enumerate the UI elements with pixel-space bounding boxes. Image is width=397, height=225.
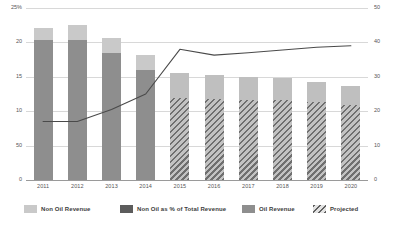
- legend-item-3[interactable]: Projected: [313, 203, 358, 215]
- right-axis-tick-label: 30: [374, 74, 394, 80]
- x-axis-label-2012: 2012: [60, 184, 94, 190]
- legend-swatch-projected: [313, 205, 326, 213]
- x-axis-label-2013: 2013: [95, 184, 129, 190]
- x-axis-label-2019: 2019: [300, 184, 334, 190]
- x-axis-label-2017: 2017: [231, 184, 265, 190]
- left-axis-tick-label: 25%: [4, 5, 22, 11]
- legend-label: Projected: [330, 206, 358, 212]
- x-axis-label-2015: 2015: [163, 184, 197, 190]
- x-axis-labels: 2011201220132014201520162017201820192020: [26, 184, 368, 194]
- right-axis-tick-label: 20: [374, 108, 394, 114]
- legend-label: Oil Revenue: [259, 206, 295, 212]
- legend-swatch-oil-revenue: [242, 205, 255, 213]
- legend-label: Non Oil Revenue: [41, 206, 91, 212]
- legend-swatch-non-oil-percent: [120, 205, 133, 213]
- legend-item-2[interactable]: Oil Revenue: [242, 203, 295, 215]
- left-axis-tick-label: 20: [4, 39, 22, 45]
- revenue-chart: 25%201510500 50403020100 201120122013201…: [0, 0, 397, 225]
- gridline: [26, 180, 368, 181]
- chart-legend: Non Oil RevenueNon Oil as % of Total Rev…: [0, 203, 397, 217]
- right-axis-tick-label: 10: [374, 143, 394, 149]
- right-axis-tick-label: 50: [374, 5, 394, 11]
- x-axis-label-2020: 2020: [334, 184, 368, 190]
- legend-swatch-non-oil-revenue: [24, 205, 37, 213]
- left-axis-tick-label: 15: [4, 74, 22, 80]
- right-axis-tick-label: 40: [374, 39, 394, 45]
- left-axis-tick-label: 0: [4, 177, 22, 183]
- left-axis-tick-label: 10: [4, 108, 22, 114]
- x-axis-label-2016: 2016: [197, 184, 231, 190]
- x-axis-label-2011: 2011: [26, 184, 60, 190]
- plot-area: [26, 8, 368, 180]
- legend-label: Non Oil as % of Total Revenue: [137, 206, 226, 212]
- right-axis-tick-label: 0: [374, 177, 394, 183]
- line-series-non-oil-percent: [26, 8, 368, 180]
- x-axis-label-2014: 2014: [129, 184, 163, 190]
- legend-item-1[interactable]: Non Oil as % of Total Revenue: [120, 203, 226, 215]
- left-axis-tick-label: 50: [4, 143, 22, 149]
- x-axis-label-2018: 2018: [266, 184, 300, 190]
- legend-item-0[interactable]: Non Oil Revenue: [24, 203, 91, 215]
